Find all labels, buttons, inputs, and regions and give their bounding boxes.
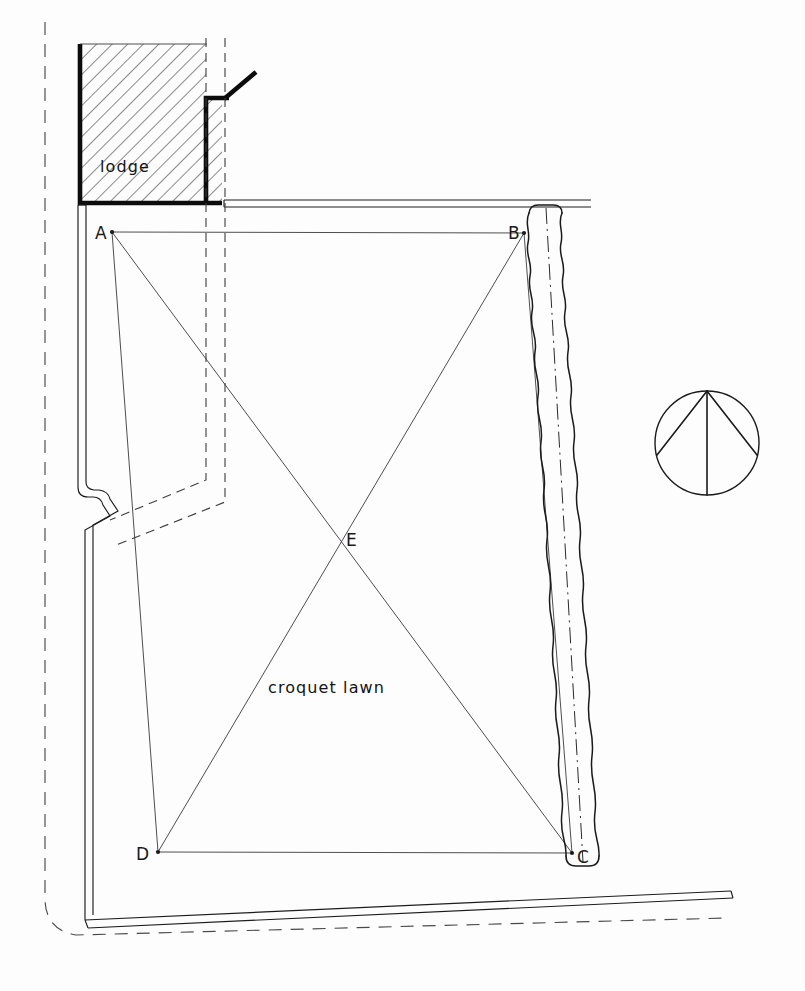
point-label-b: B: [508, 223, 520, 243]
top-wall: [224, 200, 591, 207]
hedge-right: [527, 205, 599, 866]
croquet-lawn-label: croquet lawn: [268, 678, 385, 697]
lodge-label: lodge: [100, 157, 150, 176]
lawn-diagonal-ac: [112, 232, 572, 853]
point-label-c: C: [577, 847, 589, 867]
lawn-diagonal-bd: [158, 233, 524, 852]
point-label-a: A: [95, 223, 107, 243]
left-wall: [78, 205, 118, 920]
site-plan-drawing: lodge croquet lawn A B C D E: [0, 0, 805, 991]
point-label-e: E: [346, 530, 357, 550]
bottom-wall: [85, 891, 733, 928]
north-point-compass: [655, 391, 759, 495]
lodge-building: [80, 44, 256, 203]
plan-canvas: lodge croquet lawn A B C D E: [0, 0, 805, 991]
point-label-d: D: [136, 844, 150, 864]
